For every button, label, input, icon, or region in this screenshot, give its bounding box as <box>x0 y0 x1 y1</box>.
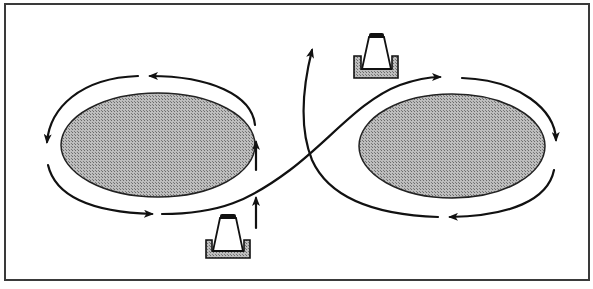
right-obstacle <box>359 94 545 198</box>
figure-eight-diagram <box>0 0 593 289</box>
diagram-canvas <box>0 0 593 289</box>
left-obstacle <box>61 93 255 197</box>
